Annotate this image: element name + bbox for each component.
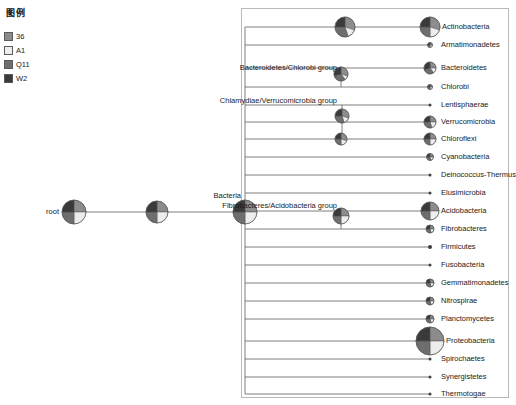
leaf-node-lentisphaerae[interactable]: [429, 104, 432, 107]
leaf-node-bacteroidetes[interactable]: [424, 62, 436, 74]
leaf-label-firmicutes: Firmicutes: [441, 243, 476, 251]
leaf-node-armatimonadetes[interactable]: [428, 43, 433, 48]
root-label: root: [46, 208, 59, 216]
leaf-label-gemmatimonadetes: Gemmatimonadetes: [441, 279, 509, 287]
node-dot: [429, 393, 432, 396]
leaf-label-chlorobi: Chlorobi: [441, 83, 469, 91]
internal-node-fibrobacteres-acidobacteria-group[interactable]: [333, 208, 349, 224]
leaf-node-chloroflexi[interactable]: [424, 133, 436, 145]
leaf-node-fusobacteria[interactable]: [429, 264, 432, 267]
leaf-node-firmicutes[interactable]: [428, 245, 432, 249]
leaf-label-acidobacteria: Acidobacteria: [441, 207, 486, 215]
internal-node-label: Chlamydiae/Verrucomicrobia group: [220, 97, 337, 105]
leaf-node-gemmatimonadetes[interactable]: [426, 279, 434, 287]
internal-node-unnamed[interactable]: [146, 201, 168, 223]
leaf-node-acidobacteria[interactable]: [421, 202, 439, 220]
leaf-node-synergistetes[interactable]: [429, 376, 432, 379]
leaf-label-fibrobacteres: Fibrobacteres: [441, 225, 487, 233]
leaf-node-planctomycetes[interactable]: [426, 315, 434, 323]
leaf-label-bacteroidetes: Bacteroidetes: [441, 64, 487, 72]
node-dot: [429, 358, 432, 361]
node-dot: [429, 174, 432, 177]
leaf-node-deinococcus-thermus[interactable]: [429, 174, 432, 177]
leaf-label-deinococcus-thermus: Deinococcus-Thermus: [441, 171, 516, 179]
internal-node-label: Bacteria: [213, 192, 241, 200]
leaf-label-armatimonadetes: Armatimonadetes: [441, 41, 500, 49]
leaf-node-actinobacteria[interactable]: [420, 17, 440, 37]
leaf-node-proteobacteria[interactable]: [416, 327, 444, 355]
node-dot: [428, 245, 432, 249]
leaf-node-thermotogae[interactable]: [429, 393, 432, 396]
internal-node-label: Fibrobacteres/Acidobacteria group: [222, 202, 337, 210]
internal-node-label: Bacteroidetes/Chlorobi group: [240, 64, 337, 72]
leaf-node-fibrobacteres[interactable]: [426, 225, 434, 233]
leaf-node-elusimicrobia[interactable]: [429, 192, 432, 195]
leaf-node-cyanobacteria[interactable]: [427, 154, 434, 161]
leaf-label-proteobacteria: Proteobacteria: [446, 337, 495, 345]
leaf-label-cyanobacteria: Cyanobacteria: [441, 153, 489, 161]
leaf-node-verrucomicrobia[interactable]: [424, 116, 436, 128]
node-dot: [429, 376, 432, 379]
leaf-label-thermotogae: Thermotogae: [441, 390, 486, 398]
leaf-label-actinobacteria: Actinobacteria: [442, 23, 490, 31]
leaf-label-nitrospirae: Nitrospirae: [441, 297, 477, 305]
leaf-node-spirochaetes[interactable]: [429, 358, 432, 361]
leaf-label-synergistetes: Synergistetes: [441, 373, 486, 381]
leaf-label-verrucomicrobia: Verrucomicrobia: [441, 118, 495, 126]
leaf-node-nitrospirae[interactable]: [426, 297, 434, 305]
node-dot: [429, 264, 432, 267]
leaf-label-planctomycetes: Planctomycetes: [441, 315, 494, 323]
node-dot: [429, 192, 432, 195]
leaf-node-chlorobi[interactable]: [428, 85, 433, 90]
leaf-label-spirochaetes: Spirochaetes: [441, 355, 485, 363]
internal-node-unnamed[interactable]: [335, 17, 355, 37]
leaf-label-lentisphaerae: Lentisphaerae: [441, 101, 489, 109]
root-node[interactable]: [62, 200, 86, 224]
internal-node-chlamydiae-verrucomicrobia-group[interactable]: [335, 109, 349, 123]
leaf-label-chloroflexi: Chloroflexi: [441, 135, 476, 143]
leaf-label-fusobacteria: Fusobacteria: [441, 261, 484, 269]
internal-node-unnamed[interactable]: [335, 133, 347, 145]
leaf-label-elusimicrobia: Elusimicrobia: [441, 189, 486, 197]
node-dot: [429, 104, 432, 107]
